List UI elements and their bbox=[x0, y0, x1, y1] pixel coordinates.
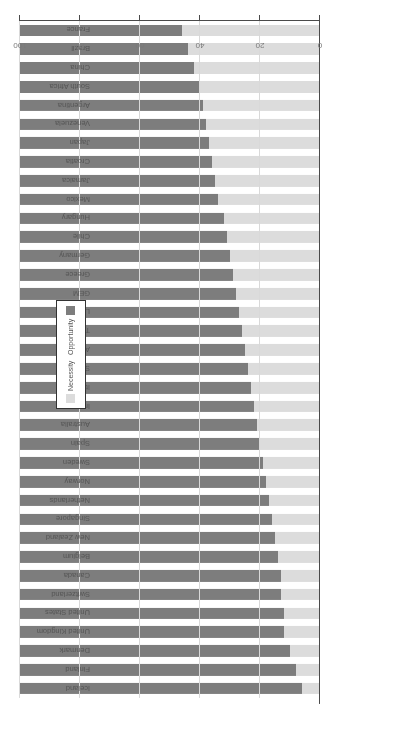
bar-segment-opportunity bbox=[20, 307, 239, 319]
bar-segment-necessity bbox=[260, 438, 320, 450]
bar-row bbox=[20, 62, 320, 74]
category-label: Belgium bbox=[63, 552, 90, 561]
bar-segment-opportunity bbox=[20, 213, 224, 225]
category-label: Netherlands bbox=[50, 496, 90, 505]
bar-segment-necessity bbox=[227, 231, 320, 243]
bar-segment-necessity bbox=[215, 175, 320, 187]
bar-segment-necessity bbox=[203, 100, 320, 112]
bar-segment-opportunity bbox=[20, 551, 278, 563]
bar-segment-necessity bbox=[257, 420, 320, 432]
category-label: South Africa bbox=[50, 82, 90, 91]
bar-row bbox=[20, 288, 320, 300]
category-label: Australia bbox=[61, 421, 90, 430]
bar-segment-opportunity bbox=[20, 137, 209, 149]
bar-segment-necessity bbox=[188, 43, 320, 55]
legend-item-necessity[interactable]: Necessity bbox=[67, 361, 76, 403]
bar-segment-necessity bbox=[182, 25, 320, 37]
category-label: France bbox=[67, 26, 90, 35]
bar-segment-necessity bbox=[284, 626, 320, 638]
x-axis-tick-label: 40 bbox=[196, 41, 205, 50]
gridline bbox=[139, 21, 140, 698]
category-label: Iceland bbox=[66, 684, 90, 693]
category-label: Germany bbox=[59, 252, 90, 261]
bar-segment-opportunity bbox=[20, 25, 182, 37]
category-label: China bbox=[70, 64, 90, 73]
bar-segment-opportunity bbox=[20, 457, 263, 469]
gridline bbox=[19, 21, 20, 698]
category-label: Denmark bbox=[60, 647, 90, 656]
bar-segment-necessity bbox=[266, 476, 320, 488]
bar-segment-necessity bbox=[269, 495, 320, 507]
bar-segment-necessity bbox=[242, 325, 320, 337]
chart-legend[interactable]: Necessity Opportunity bbox=[56, 300, 86, 409]
bar-segment-necessity bbox=[194, 62, 320, 74]
bar-segment-necessity bbox=[275, 532, 320, 544]
bar-segment-opportunity bbox=[20, 81, 200, 93]
bar-segment-opportunity bbox=[20, 288, 236, 300]
x-axis-tick-label: 0 bbox=[318, 41, 322, 50]
bar-segment-opportunity bbox=[20, 43, 188, 55]
category-label: Finland bbox=[65, 665, 90, 674]
category-label: Norway bbox=[65, 477, 90, 486]
legend-label-opportunity: Opportunity bbox=[68, 318, 75, 354]
category-label: Switzerland bbox=[51, 590, 90, 599]
category-label: New Zealand bbox=[46, 534, 90, 543]
bar-segment-necessity bbox=[236, 288, 320, 300]
category-label: United Kingdom bbox=[37, 628, 90, 637]
legend-item-opportunity[interactable]: Opportunity bbox=[67, 306, 76, 354]
category-label: Mexico bbox=[66, 195, 90, 204]
gridline bbox=[199, 21, 200, 698]
x-axis-tick-label: 100 bbox=[13, 41, 26, 50]
bar-segment-necessity bbox=[245, 344, 320, 356]
legend-label-necessity: Necessity bbox=[68, 361, 75, 391]
bar-segment-opportunity bbox=[20, 476, 266, 488]
bar-segment-necessity bbox=[281, 589, 320, 601]
bar-segment-necessity bbox=[278, 551, 320, 563]
category-label: Spain bbox=[71, 440, 90, 449]
y-axis-line bbox=[319, 20, 320, 704]
bar-segment-necessity bbox=[212, 156, 320, 168]
bar-segment-necessity bbox=[290, 645, 320, 657]
bar-segment-opportunity bbox=[20, 194, 218, 206]
bar-segment-necessity bbox=[251, 382, 320, 394]
bar-segment-opportunity bbox=[20, 382, 251, 394]
bar-segment-necessity bbox=[281, 570, 320, 582]
x-axis-line bbox=[20, 20, 320, 21]
bar-segment-opportunity bbox=[20, 231, 227, 243]
bar-segment-necessity bbox=[302, 683, 320, 695]
gridline bbox=[259, 21, 260, 698]
bar-segment-necessity bbox=[233, 269, 320, 281]
category-label: Sweden bbox=[63, 458, 90, 467]
bar-segment-necessity bbox=[206, 119, 320, 131]
bar-segment-opportunity bbox=[20, 175, 215, 187]
category-label: Jamaica bbox=[62, 176, 90, 185]
bar-row bbox=[20, 43, 320, 55]
bar-row bbox=[20, 438, 320, 450]
bar-row bbox=[20, 194, 320, 206]
bar-segment-opportunity bbox=[20, 325, 242, 337]
bar-segment-opportunity bbox=[20, 438, 260, 450]
bar-segment-necessity bbox=[200, 81, 320, 93]
bar-segment-opportunity bbox=[20, 62, 194, 74]
bar-segment-opportunity bbox=[20, 156, 212, 168]
category-label: Venezuela bbox=[55, 120, 90, 129]
category-label: Greece bbox=[65, 270, 90, 279]
category-label: GEM bbox=[73, 289, 90, 298]
category-label: Chile bbox=[73, 233, 90, 242]
bar-segment-opportunity bbox=[20, 570, 281, 582]
category-label: Singapore bbox=[56, 515, 90, 524]
category-label: Croatia bbox=[66, 158, 90, 167]
bar-segment-opportunity bbox=[20, 100, 203, 112]
bar-segment-necessity bbox=[254, 401, 320, 413]
category-label: Argentina bbox=[58, 101, 90, 110]
bar-segment-necessity bbox=[296, 664, 320, 676]
bar-segment-opportunity bbox=[20, 269, 233, 281]
x-axis-tick-label: 60 bbox=[136, 41, 145, 50]
bar-segment-opportunity bbox=[20, 664, 296, 676]
chart-figure: IcelandFinlandDenmarkUnited KingdomUnite… bbox=[0, 0, 394, 739]
category-label: United States bbox=[45, 609, 90, 618]
bar-segment-necessity bbox=[272, 514, 320, 526]
x-axis-tick-label: 80 bbox=[76, 41, 85, 50]
bar-segment-opportunity bbox=[20, 119, 206, 131]
bar-segment-necessity bbox=[284, 608, 320, 620]
